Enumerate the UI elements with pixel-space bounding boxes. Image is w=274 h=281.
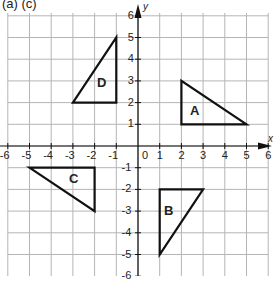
y-tick-label: 3: [128, 75, 134, 86]
y-tick-label: 4: [128, 53, 134, 64]
x-tick-label: -2: [87, 150, 97, 161]
shape-label-d: D: [97, 76, 106, 89]
shape-label-c: C: [69, 172, 78, 185]
y-tick-label: 6: [128, 10, 134, 21]
axes: [0, 4, 272, 276]
shape-label-b: B: [164, 204, 173, 217]
x-tick-label: 3: [200, 150, 206, 161]
y-tick-label: 1: [128, 118, 134, 129]
x-tick-label: 0: [142, 150, 148, 161]
y-tick-label: -5: [122, 249, 132, 260]
x-tick-label: -6: [0, 150, 10, 161]
y-tick-label: 5: [128, 32, 134, 43]
x-tick-label: 5: [244, 150, 250, 161]
x-tick-label: -3: [65, 150, 75, 161]
y-tick-label: -3: [122, 205, 132, 216]
x-tick-label: -1: [108, 150, 118, 161]
x-tick-label: 2: [178, 150, 184, 161]
y-tick-label: 2: [128, 97, 134, 108]
y-tick-label: -6: [122, 270, 132, 281]
x-tick-label: 6: [265, 150, 271, 161]
shape-label-a: A: [190, 104, 199, 117]
y-tick-label: -1: [122, 162, 132, 173]
x-axis-name: x: [268, 134, 273, 144]
y-tick-label: -4: [122, 227, 132, 238]
y-axis-name: y: [143, 2, 148, 12]
y-tick-label: -2: [122, 183, 132, 194]
x-tick-label: 4: [222, 150, 228, 161]
x-tick-label: 1: [157, 150, 163, 161]
x-tick-label: -5: [22, 150, 32, 161]
x-tick-label: -4: [43, 150, 53, 161]
